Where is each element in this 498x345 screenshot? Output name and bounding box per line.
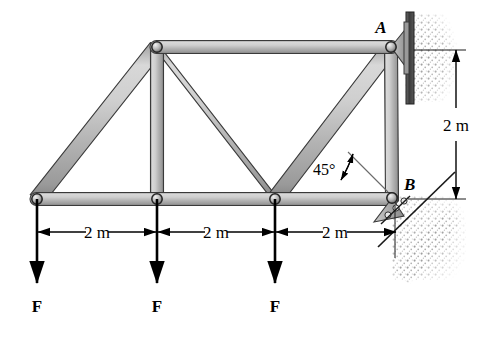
- member-right-vertical: [385, 45, 399, 201]
- angle-label: 45°: [313, 161, 335, 178]
- force-label-2: F: [152, 297, 162, 316]
- label-support-b: B: [403, 175, 415, 194]
- force-label-1: F: [32, 297, 42, 316]
- force-label-3: F: [270, 297, 280, 316]
- dimension-label-span-3: 2 m: [322, 223, 348, 242]
- truss-members: [30, 41, 399, 206]
- dimension-label-span-1: 2 m: [84, 223, 110, 242]
- pin-joint-b: [387, 193, 397, 203]
- truss-diagram-figure: 45° A B F F F 2 m 2 m 2 m: [0, 0, 498, 345]
- truss-diagram-canvas: 45° A B F F F 2 m 2 m 2 m: [0, 0, 498, 345]
- dimension-label-height: 2 m: [443, 116, 469, 135]
- pin-joint-top-left: [152, 42, 162, 52]
- member-left-vertical: [151, 45, 164, 201]
- dimension-label-span-2: 2 m: [203, 223, 229, 242]
- angle-marker-45: [341, 152, 388, 192]
- member-right-diagonal: [268, 43, 397, 204]
- member-left-diagonal: [30, 43, 163, 204]
- member-center-diagonal: [150, 43, 281, 204]
- ground-hatch-b: [392, 196, 470, 284]
- member-top-chord: [150, 41, 398, 54]
- pin-joint-a: [386, 42, 396, 52]
- label-support-a: A: [374, 18, 386, 37]
- member-bottom-chord: [30, 193, 398, 206]
